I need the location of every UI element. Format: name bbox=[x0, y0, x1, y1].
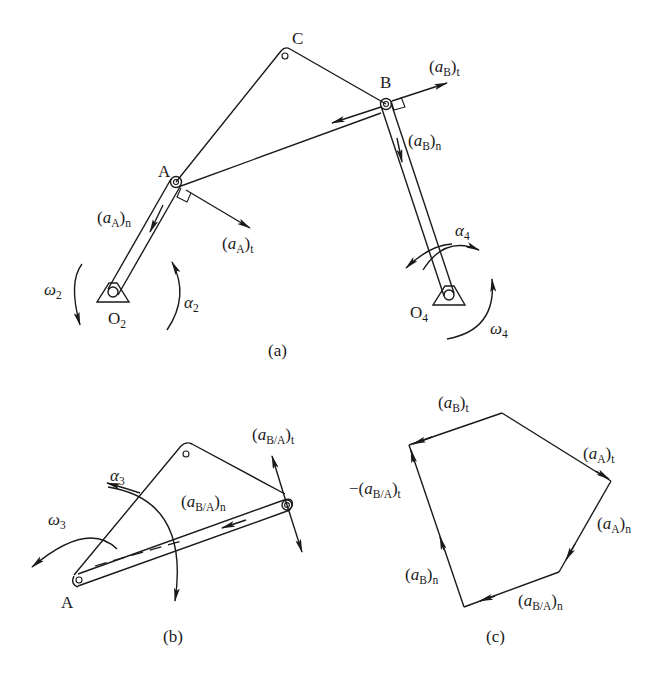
coupler-link bbox=[176, 48, 386, 186]
label-omega4: ω4 bbox=[490, 319, 508, 340]
vector-aBA-t-up-arrow bbox=[272, 456, 287, 505]
label-c-neg-aBA-t: −(aB/A)t bbox=[349, 479, 402, 500]
arrow-aA-t bbox=[596, 471, 609, 479]
omega2-arrow bbox=[74, 264, 82, 325]
label-point-o2: O2 bbox=[108, 309, 126, 330]
caption-b: (b) bbox=[163, 627, 183, 646]
panel-b: A α3 ω3 (aB/A)t (aB/A)n (b) bbox=[32, 425, 302, 646]
label-aBA-t: (aB/A)t bbox=[252, 425, 295, 446]
label-omega3: ω3 bbox=[48, 510, 66, 531]
label-aA-n: (aA)n bbox=[97, 208, 131, 229]
right-angle-mark-a bbox=[177, 188, 191, 202]
label-c-aA-t: (aA)t bbox=[583, 444, 615, 465]
label-aBA-n: (aB/A)n bbox=[181, 492, 226, 513]
label-point-b: B bbox=[380, 73, 391, 92]
label-c-aBA-n: (aB/A)n bbox=[518, 591, 563, 612]
vector-aBA-t-down-arrow bbox=[287, 505, 302, 552]
label-aB-n: (aB)n bbox=[408, 131, 442, 152]
label-c-aA-n: (aA)n bbox=[597, 514, 631, 535]
label-alpha4: α4 bbox=[455, 221, 470, 242]
linkage-acceleration-figure: C B A O2 O4 (aB)t (aB)n (aA)n (aA)t ω2 α… bbox=[0, 0, 663, 676]
arrow-aA-n bbox=[566, 544, 575, 560]
label-point-a: A bbox=[158, 162, 171, 181]
label-c-aB-t: (aB)t bbox=[438, 393, 470, 414]
label-alpha2: α2 bbox=[184, 293, 199, 314]
caption-c: (c) bbox=[486, 627, 505, 646]
arrow-neg-aBA-t bbox=[411, 450, 414, 462]
label-omega2: ω2 bbox=[44, 280, 62, 301]
panel-c: (aB)t (aA)t −(aB/A)t (aA)n (aB)n (aB/A)n… bbox=[349, 393, 631, 646]
label-point-o4: O4 bbox=[410, 303, 428, 324]
omega4-arrow bbox=[447, 279, 492, 339]
omega3-arrow bbox=[32, 538, 117, 567]
link-o2-a bbox=[108, 177, 182, 298]
alpha3-arrow-down bbox=[108, 487, 177, 601]
link-b-o4 bbox=[381, 99, 455, 301]
arrow-aB-t bbox=[413, 437, 432, 444]
label-point-a-b: A bbox=[61, 593, 74, 612]
panel-a: C B A O2 O4 (aB)t (aB)n (aA)n (aA)t ω2 α… bbox=[44, 29, 508, 360]
vector-aA-t-arrow bbox=[186, 190, 250, 228]
arrow-aBA-n bbox=[480, 596, 495, 601]
arrow-aB-n bbox=[440, 537, 444, 550]
label-c-aB-n: (aB)n bbox=[405, 565, 439, 586]
vector-aB-t-arrow bbox=[392, 83, 447, 101]
label-point-c: C bbox=[292, 29, 303, 48]
caption-a: (a) bbox=[268, 341, 287, 360]
ground-support-o2 bbox=[97, 283, 129, 302]
coupler-body-b bbox=[73, 443, 293, 587]
label-aB-t: (aB)t bbox=[429, 57, 461, 78]
alpha2-arrow bbox=[167, 262, 180, 330]
label-aA-t: (aA)t bbox=[222, 234, 254, 255]
ground-support-o4 bbox=[433, 286, 465, 305]
label-alpha3: α3 bbox=[110, 466, 125, 487]
